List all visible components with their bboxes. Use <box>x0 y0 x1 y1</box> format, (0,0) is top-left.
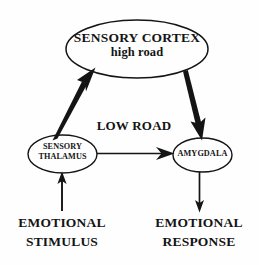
emotion-pathway-diagram: SENSORY CORTEX high road SENSORY THALAMU… <box>0 0 259 265</box>
thalamus-to-amygdala-arrow <box>97 147 175 160</box>
amygdala-ellipse <box>173 138 232 172</box>
thalamus-to-cortex-arrow <box>53 68 96 141</box>
cortex-to-amygdala-arrow <box>183 70 206 141</box>
sensory-cortex-ellipse <box>66 20 208 78</box>
amygdala-to-response-arrow <box>195 172 204 213</box>
stimulus-to-thalamus-arrow <box>57 172 66 212</box>
diagram-canvas <box>0 0 259 265</box>
sensory-thalamus-ellipse <box>28 135 97 173</box>
